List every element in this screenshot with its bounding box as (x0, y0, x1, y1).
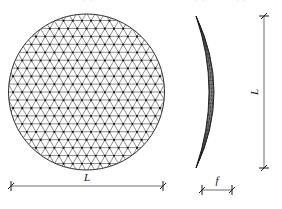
dimension-label: L (83, 171, 90, 183)
dimension-span-elevation: L (248, 13, 269, 171)
elevation-view-group (196, 16, 230, 168)
dimension-label: L (248, 89, 260, 96)
dome-geometry-figure: LLf (0, 0, 282, 209)
dimension-span-plan: L (8, 171, 166, 191)
dimension-label: f (215, 174, 220, 186)
dimension-rise: f (199, 174, 235, 195)
figure-root: 空间网格结构 · 球面网壳几何参数示意（平面图与立面图） LLf (0, 0, 282, 209)
plan-view-group (0, 5, 282, 179)
elevation-view-mesh (196, 16, 230, 168)
